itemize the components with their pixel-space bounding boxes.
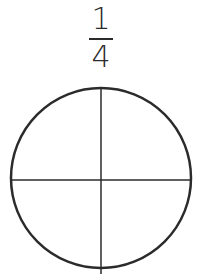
circle-divided-in-quarters [0, 0, 207, 274]
